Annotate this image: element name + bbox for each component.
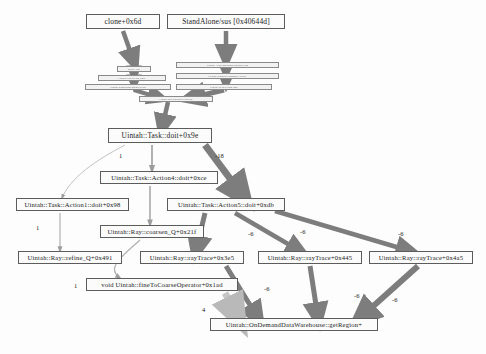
call-graph-canvas: clone+0x6d StandAlone/sus [0x40644d] thr… [0,0,486,354]
node-fine-to-coarse[interactable]: void Uintah::fineToCoarseOperator+0x1ad [86,278,238,291]
node-action5-doit[interactable]: Uintah::Task::Action5::doit+0xdb [167,198,285,211]
node-ray-refine-q[interactable]: Uintah::Ray::refine_Q+0x491 [18,251,122,264]
node-scheduler-execute[interactable]: Uintah::SchedulerCommon::execute [176,73,279,79]
node-amr-simulation-run[interactable]: Uintah::AMRSimulationController::run [176,62,279,68]
node-task-doit[interactable]: Uintah::Task::doit+0x9e [108,128,212,143]
edge-label: -6 [392,296,397,303]
node-ray-trace-3e5[interactable]: Uintah::Ray::rayTrace+0x3e5 [140,251,244,264]
edge-label: -6 [398,230,403,237]
edge-label: -6 [354,292,359,299]
edge-label: -6 [248,230,253,237]
edge-label: -6 [264,285,269,292]
node-standalone[interactable]: StandAlone/sus [0x40644d] [167,14,285,29]
node-mpi-scheduler-runtask[interactable]: Uintah::MPIScheduler::runTask [139,96,213,102]
node-simulation-controller[interactable]: Uintah::SimulationController::run [85,84,171,90]
node-action1-doit[interactable]: Uintah::Task::Action1::doit+0x98 [16,198,129,211]
node-thread-run-body[interactable]: Uintah::Thread::run_body [98,75,166,81]
edge-label: -18 [215,152,224,159]
node-get-region[interactable]: Uintah::OnDemandDataWarehouse::getRegion… [210,318,378,331]
edge-label: 1 [119,152,122,159]
edge-label: 1 [74,282,77,289]
node-action4-doit[interactable]: Uintah::Task::Action4::doit+0xce [100,171,218,184]
node-ray-trace-4a5[interactable]: Uintah::Ray::rayTrace+0x4a5 [369,251,473,264]
edge-layer [0,0,486,354]
node-detailed-task-doit[interactable]: Uintah::DetailedTask::doit [176,84,272,90]
node-ray-trace-445[interactable]: Uintah::Ray::rayTrace+0x445 [258,251,362,264]
edge-label: -6 [300,228,305,235]
node-ray-coarsen-q[interactable]: Uintah::Ray::coarsen_Q+0x21f [100,225,204,238]
node-thread-start[interactable]: thread_start [117,66,151,72]
edge-label: 4 [202,306,205,313]
edge-label: 1 [36,224,39,231]
node-clone[interactable]: clone+0x6d [86,14,160,29]
